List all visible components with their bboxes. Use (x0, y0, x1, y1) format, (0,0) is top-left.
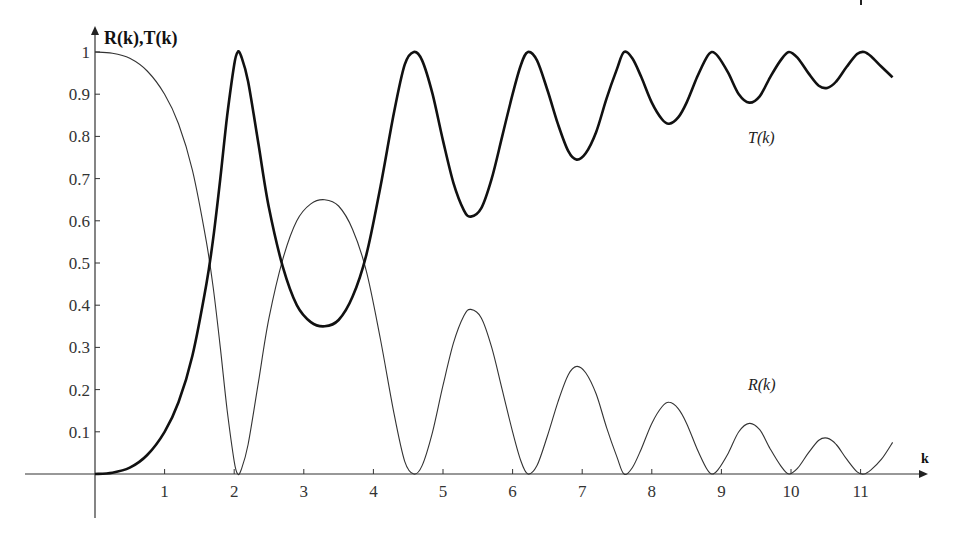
y-tick-label: 0.7 (69, 170, 91, 189)
y-tick-label: 0.8 (69, 127, 90, 146)
x-tick-label: 7 (578, 482, 587, 501)
y-tick-label: 1 (82, 43, 91, 62)
x-tick-label: 3 (300, 482, 309, 501)
x-tick-label: 9 (717, 482, 726, 501)
x-tick-label: 8 (648, 482, 657, 501)
x-tick-label: 6 (508, 482, 517, 501)
y-tick-label: 0.9 (69, 85, 90, 104)
curves (95, 51, 893, 474)
x-tick-label: 5 (439, 482, 448, 501)
y-tick-label: 0.1 (69, 423, 90, 442)
y-tick-label: 0.4 (69, 296, 91, 315)
reflection-curve (95, 52, 893, 475)
x-axis-title: k (921, 451, 929, 466)
axes: R(k),T(k) k 1234567891011 0.10.20.30.40.… (25, 26, 929, 518)
x-tick-label: 2 (230, 482, 239, 501)
transmission-reflection-chart: R(k),T(k) k 1234567891011 0.10.20.30.40.… (0, 0, 957, 534)
y-tick-label: 0.2 (69, 381, 90, 400)
y-axis-arrow-icon (91, 26, 99, 35)
x-axis-arrow-icon (919, 470, 928, 478)
transmission-curve (95, 51, 893, 474)
y-axis-title: R(k),T(k) (104, 28, 178, 49)
t-curve-label: T(k) (748, 129, 775, 147)
y-tick-label: 0.3 (69, 338, 90, 357)
x-tick-label: 11 (852, 482, 868, 501)
y-tick-label: 0.5 (69, 254, 90, 273)
top-edge-mark (860, 0, 862, 5)
x-tick-label: 4 (369, 482, 378, 501)
y-tick-label: 0.6 (69, 212, 90, 231)
x-tick-label: 1 (160, 482, 169, 501)
r-curve-label: R(k) (747, 376, 776, 394)
x-tick-label: 10 (783, 482, 800, 501)
